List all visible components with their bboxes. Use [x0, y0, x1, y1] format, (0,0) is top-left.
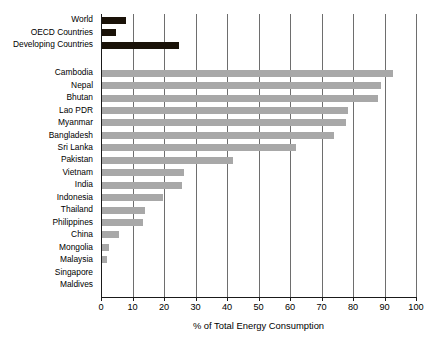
gridline-70: [322, 14, 323, 297]
category-label-malaysia: Malaysia: [0, 255, 93, 264]
tick-100: [416, 297, 417, 301]
gridline-20: [164, 14, 165, 297]
bar-indonesia: [102, 194, 163, 201]
category-label-india: India: [0, 180, 93, 189]
tick-70: [322, 297, 323, 301]
tick-label-100: 100: [401, 302, 431, 313]
bar-thailand: [102, 207, 145, 214]
tick-label-90: 90: [370, 302, 400, 313]
tick-label-30: 30: [181, 302, 211, 313]
x-axis-title: % of Total Energy Consumption: [101, 320, 416, 331]
tick-10: [133, 297, 134, 301]
category-label-column: WorldOECD CountriesDeveloping CountriesC…: [0, 14, 97, 297]
category-label-indonesia: Indonesia: [0, 193, 93, 202]
tick-60: [290, 297, 291, 301]
gridline-50: [259, 14, 260, 297]
tick-20: [164, 297, 165, 301]
category-label-nepal: Nepal: [0, 81, 93, 90]
tick-label-50: 50: [244, 302, 274, 313]
tick-label-80: 80: [338, 302, 368, 313]
bar-lao-pdr: [102, 107, 348, 114]
tick-label-20: 20: [149, 302, 179, 313]
bar-sri-lanka: [102, 144, 296, 151]
category-label-thailand: Thailand: [0, 205, 93, 214]
category-label-pakistan: Pakistan: [0, 155, 93, 164]
bar-india: [102, 182, 182, 189]
bar-cambodia: [102, 70, 393, 77]
bar-vietnam: [102, 169, 184, 176]
tick-label-10: 10: [118, 302, 148, 313]
category-label-developing-countries: Developing Countries: [0, 40, 93, 49]
category-label-china: China: [0, 230, 93, 239]
gridline-80: [353, 14, 354, 297]
category-label-singapore: Singapore: [0, 268, 93, 277]
category-label-philippines: Philippines: [0, 218, 93, 227]
gridline-10: [133, 14, 134, 297]
bar-nepal: [102, 82, 381, 89]
category-label-bhutan: Bhutan: [0, 93, 93, 102]
tick-label-0: 0: [86, 302, 116, 313]
category-label-vietnam: Vietnam: [0, 168, 93, 177]
tick-label-70: 70: [307, 302, 337, 313]
bar-developing-countries: [102, 42, 179, 49]
gridline-60: [290, 14, 291, 297]
gridline-100: [416, 14, 417, 297]
bar-philippines: [102, 219, 143, 226]
category-label-oecd-countries: OECD Countries: [0, 28, 93, 37]
bar-malaysia: [102, 256, 107, 263]
category-label-lao-pdr: Lao PDR: [0, 106, 93, 115]
category-label-maldives: Maldives: [0, 280, 93, 289]
category-label-mongolia: Mongolia: [0, 243, 93, 252]
bar-bangladesh: [102, 132, 334, 139]
tick-80: [353, 297, 354, 301]
tick-90: [385, 297, 386, 301]
category-label-sri-lanka: Sri Lanka: [0, 143, 93, 152]
tick-50: [259, 297, 260, 301]
bar-oecd-countries: [102, 29, 116, 36]
gridline-30: [196, 14, 197, 297]
tick-30: [196, 297, 197, 301]
gridline-0: [101, 14, 102, 297]
gridline-90: [385, 14, 386, 297]
category-label-world: World: [0, 15, 93, 24]
plot-area: [101, 14, 416, 297]
category-label-cambodia: Cambodia: [0, 68, 93, 77]
bar-myanmar: [102, 119, 346, 126]
bar-bhutan: [102, 95, 378, 102]
bar-china: [102, 231, 119, 238]
category-label-bangladesh: Bangladesh: [0, 131, 93, 140]
bar-pakistan: [102, 157, 233, 164]
gridline-40: [227, 14, 228, 297]
tick-0: [101, 297, 102, 301]
bar-chart: WorldOECD CountriesDeveloping CountriesC…: [0, 0, 447, 359]
category-label-myanmar: Myanmar: [0, 118, 93, 127]
bar-world: [102, 17, 126, 24]
tick-label-60: 60: [275, 302, 305, 313]
tick-40: [227, 297, 228, 301]
bar-mongolia: [102, 244, 109, 251]
tick-label-40: 40: [212, 302, 242, 313]
